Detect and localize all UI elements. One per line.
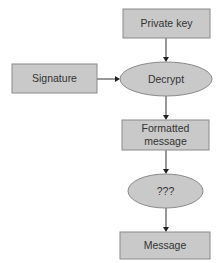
arrowhead-icon [163,169,169,174]
node-label: ??? [157,185,175,197]
node-unknown: ??? [128,174,203,208]
node-label: Decrypt [148,73,184,85]
node-label: Message [144,239,187,251]
edge-formatted-to-unknown [163,150,169,174]
node-decrypt: Decrypt [120,62,212,96]
node-signature: Signature [12,64,97,93]
node-label: Signature [32,72,77,84]
edge-decrypt-to-formatted [163,96,169,120]
node-private-key: Private key [123,9,210,38]
flowchart-canvas: Private key Signature Decrypt Formatted … [0,0,218,263]
node-formatted-message: Formatted message [122,120,209,150]
edge-unknown-to-message [163,208,169,232]
node-label-line1: Formatted [142,122,190,134]
node-message: Message [120,232,210,259]
arrowhead-icon [163,115,169,120]
node-label: Private key [141,17,194,29]
node-label-line2: message [144,135,187,147]
edge-private-key-to-decrypt [163,38,169,62]
arrowhead-icon [163,57,169,62]
edge-signature-to-decrypt [97,76,120,82]
arrowhead-icon [163,227,169,232]
arrowhead-icon [115,76,120,82]
